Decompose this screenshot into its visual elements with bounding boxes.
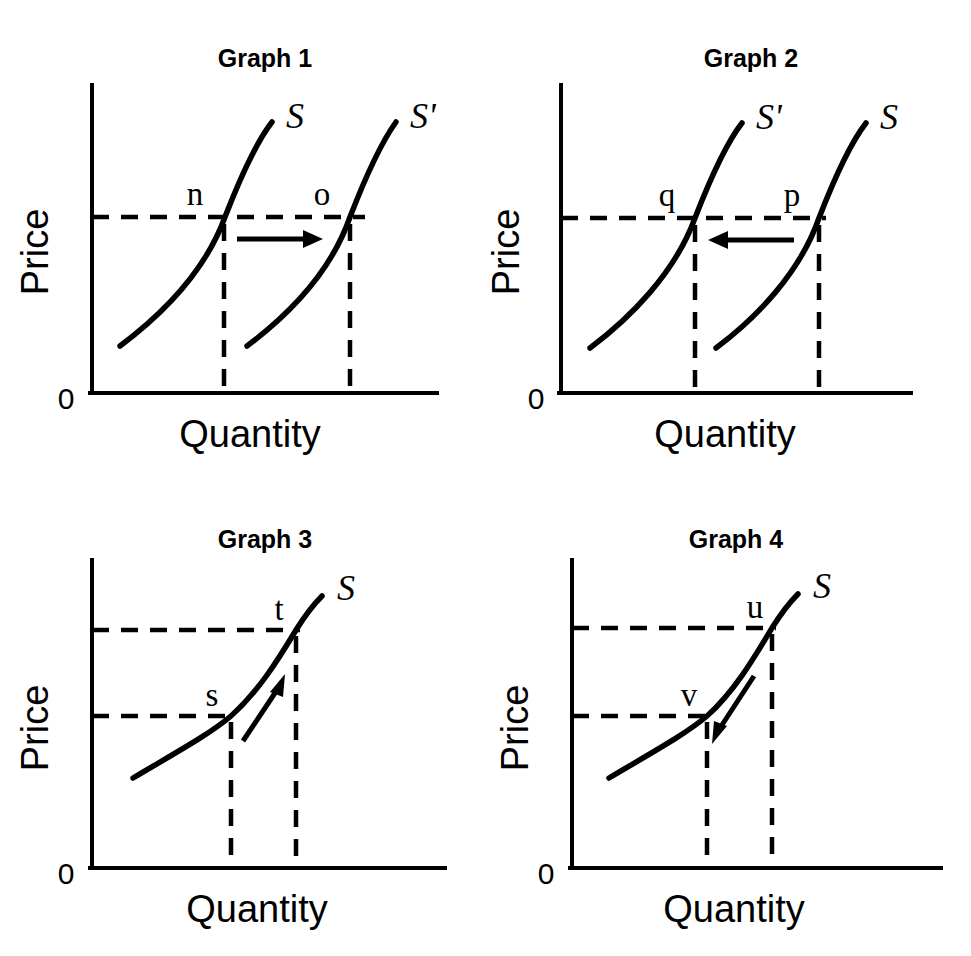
graph-4-x-axis-label: Quantity bbox=[663, 888, 805, 930]
supply-curve-figure: Graph 1 S S' n o P bbox=[0, 0, 971, 956]
graph-2-x-axis-label: Quantity bbox=[654, 413, 796, 455]
graph-4-origin-label: 0 bbox=[538, 857, 555, 890]
graph-1-rightward-shift-arrow bbox=[237, 230, 323, 248]
graph-1-panel: Graph 1 S S' n o P bbox=[0, 0, 485, 478]
graph-1-point-label-n: n bbox=[187, 176, 204, 212]
graph-2-supply-curve-s bbox=[716, 123, 866, 348]
graph-1-point-label-o: o bbox=[314, 176, 331, 212]
graph-2-panel: Graph 2 S' S q p P bbox=[486, 0, 971, 478]
graph-1-title: Graph 1 bbox=[218, 44, 313, 72]
graph-3-x-axis-label: Quantity bbox=[186, 888, 328, 930]
graph-1-supply-curve-s bbox=[120, 122, 272, 346]
graph-3-point-label-t: t bbox=[274, 591, 283, 627]
graph-3-y-axis-label: Price bbox=[14, 685, 56, 772]
graph-2-leftward-shift-arrow bbox=[708, 231, 794, 249]
graph-2-point-label-q: q bbox=[659, 177, 676, 213]
graph-2-curve-label-s: S bbox=[880, 97, 898, 137]
graph-2-title: Graph 2 bbox=[704, 44, 798, 72]
graph-3-panel: Graph 3 S s t Price Quant bbox=[0, 478, 485, 956]
graph-3-title: Graph 3 bbox=[218, 525, 312, 553]
graph-4-curve-label-s: S bbox=[813, 566, 831, 606]
graph-4-point-label-v: v bbox=[681, 677, 698, 713]
graph-1-y-axis-label: Price bbox=[14, 209, 56, 296]
graph-1-curve-label-s: S bbox=[286, 96, 304, 136]
graph-2-origin-label: 0 bbox=[528, 382, 545, 415]
graph-1-supply-curve-s-prime bbox=[247, 122, 396, 346]
graph-4-title: Graph 4 bbox=[689, 525, 784, 553]
graph-2-y-axis-label: Price bbox=[486, 209, 527, 296]
graph-2-point-label-p: p bbox=[784, 177, 801, 213]
graph-3-upward-movement-arrow bbox=[243, 674, 285, 741]
graph-3-supply-curve-s bbox=[133, 596, 322, 778]
graph-4-panel: Graph 4 S v u Price Quant bbox=[486, 478, 971, 956]
graph-4-supply-curve-s bbox=[609, 594, 798, 778]
graph-3-point-label-s: s bbox=[206, 677, 219, 713]
graph-2-curve-label-s-prime: S' bbox=[756, 97, 783, 137]
graph-1-curve-label-s-prime: S' bbox=[410, 96, 437, 136]
graph-4-y-axis-label: Price bbox=[494, 685, 536, 772]
graph-1-origin-label: 0 bbox=[58, 382, 75, 415]
graph-3-origin-label: 0 bbox=[58, 857, 75, 890]
graph-1-x-axis-label: Quantity bbox=[179, 413, 321, 455]
graph-4-point-label-u: u bbox=[747, 589, 764, 625]
graph-3-curve-label-s: S bbox=[337, 568, 355, 608]
